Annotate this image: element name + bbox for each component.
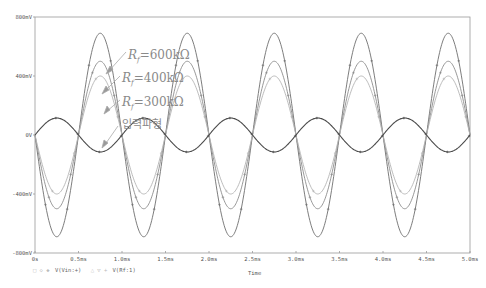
y-tick-label: 800mV bbox=[15, 14, 32, 20]
x-tick-label: 0s bbox=[32, 256, 39, 262]
y-tick-label: 400mV bbox=[15, 73, 32, 79]
svg-text:Rf=600kΩ: Rf=600kΩ bbox=[127, 48, 190, 64]
svg-text:Rf=400kΩ: Rf=400kΩ bbox=[121, 71, 184, 87]
y-tick-label: -800mV bbox=[12, 250, 33, 256]
x-axis-label: Time bbox=[248, 270, 261, 276]
legend-label-rf: V(Rf:1) bbox=[113, 267, 136, 273]
x-tick-label: 3.5ms bbox=[331, 256, 348, 262]
x-tick-label: 4.0ms bbox=[375, 256, 392, 262]
x-tick-label: 1.0ms bbox=[114, 256, 131, 262]
annotation-rf400: Rf=400kΩ bbox=[121, 71, 184, 87]
annotation-input: 입력파형 bbox=[122, 118, 162, 131]
x-tick-label: 2.5ms bbox=[244, 256, 261, 262]
legend: □ ◇ ◆ V(Vin:+) △ ▽ + V(Rf:1) bbox=[33, 267, 136, 273]
x-tick-label: 5.0ms bbox=[462, 256, 479, 262]
svg-text:□ ◇ ◆ V(Vin:+) △ ▽: □ ◇ ◆ V(Vin:+) △ ▽ + V(Rf:1) bbox=[33, 267, 136, 273]
curve-markers bbox=[44, 60, 470, 211]
legend-marker-rf: △ ▽ + bbox=[91, 267, 108, 273]
x-tick-label: 4.5ms bbox=[418, 256, 435, 262]
x-tick-label: 0.5ms bbox=[70, 256, 87, 262]
chart-svg: 800mV400mV0V-400mV-800mV 0s0.5ms1.0ms1.5… bbox=[0, 0, 486, 288]
x-tick-label: 1.5ms bbox=[157, 256, 174, 262]
y-axis: 800mV400mV0V-400mV-800mV bbox=[12, 14, 35, 256]
legend-label-vin: V(Vin:+) bbox=[55, 267, 82, 273]
x-tick-label: 3.0ms bbox=[288, 256, 305, 262]
x-tick-label: 2.0ms bbox=[201, 256, 218, 262]
svg-text:Rf=300kΩ: Rf=300kΩ bbox=[121, 95, 184, 111]
svg-text:입력파형: 입력파형 bbox=[122, 118, 162, 131]
curve-입력파형 bbox=[35, 118, 470, 152]
plot-curves bbox=[35, 33, 470, 237]
y-tick-label: 0V bbox=[25, 132, 32, 138]
annotation-rf600: Rf=600kΩ bbox=[127, 48, 190, 64]
legend-marker-vin: □ ◇ ◆ bbox=[33, 267, 50, 273]
annotation-rf300: Rf=300kΩ bbox=[121, 95, 184, 111]
y-tick-label: -400mV bbox=[12, 191, 33, 197]
